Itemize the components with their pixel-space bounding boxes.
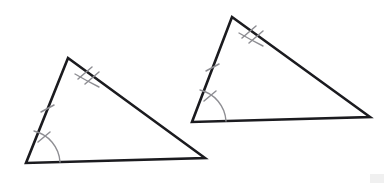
corner-watermark [370, 174, 384, 183]
geometry-canvas [0, 0, 387, 186]
diagram-root: Congruent Triangles Diagram [0, 0, 387, 186]
